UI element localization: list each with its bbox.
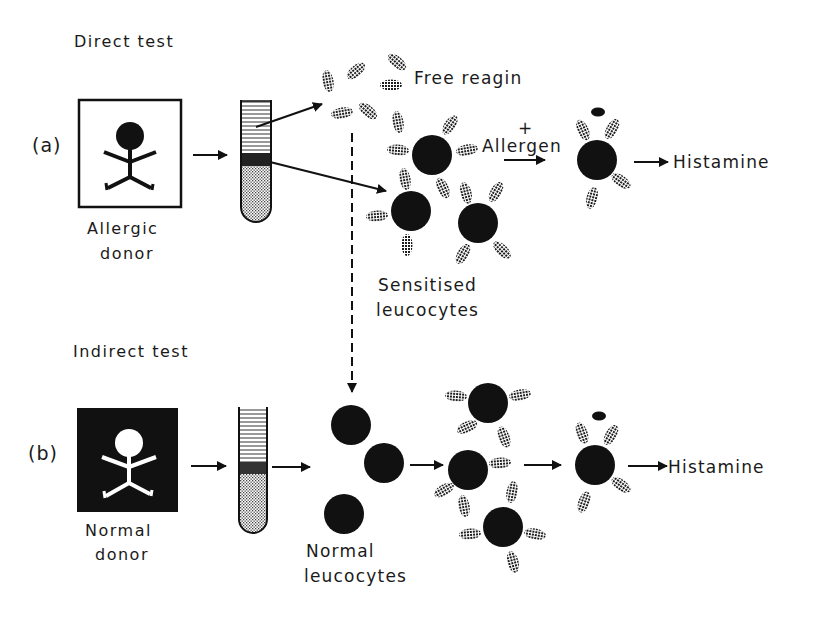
sensitised-label-line2: leucocytes <box>376 300 479 320</box>
panel-label-b: (b) <box>28 442 58 464</box>
direct-test-section: Direct test (a) Allergic donor <box>32 32 770 320</box>
normal-donor-label-line2: donor <box>95 545 149 564</box>
degranulating-cell-a-icon <box>573 108 633 211</box>
free-reagin-label: Free reagin <box>414 68 522 88</box>
allergic-donor-icon <box>79 100 181 207</box>
normal-donor-label-line1: Normal <box>85 521 152 540</box>
arrow-tube-to-leucocytes <box>270 162 386 191</box>
passively-sensitised-leucocytes-icon <box>432 383 547 574</box>
normal-leucocytes-label-line1: Normal <box>306 541 375 561</box>
test-tube-a-icon <box>241 100 271 222</box>
allergen-label: Allergen <box>482 136 562 156</box>
test-tube-b-icon <box>239 407 267 533</box>
panel-label-a: (a) <box>32 134 61 156</box>
plus-sign: + <box>518 118 533 138</box>
indirect-test-heading: Indirect test <box>73 342 189 361</box>
allergic-donor-label-line2: donor <box>100 244 154 263</box>
histamine-label-b: Histamine <box>668 457 765 477</box>
free-reagin-icon <box>321 51 409 134</box>
direct-test-heading: Direct test <box>74 32 174 51</box>
allergic-donor-label-line1: Allergic <box>87 219 158 238</box>
histamine-label-a: Histamine <box>673 152 770 172</box>
indirect-test-section: Indirect test (b) Normal donor <box>28 342 765 586</box>
normal-leucocytes-icon <box>324 405 404 534</box>
sensitised-label-line1: Sensitised <box>378 275 477 295</box>
normal-donor-icon <box>77 408 178 512</box>
allergy-test-diagram: Direct test (a) Allergic donor <box>0 0 814 617</box>
degranulating-cell-b-icon <box>573 412 633 515</box>
normal-leucocytes-label-line2: leucocytes <box>304 566 407 586</box>
